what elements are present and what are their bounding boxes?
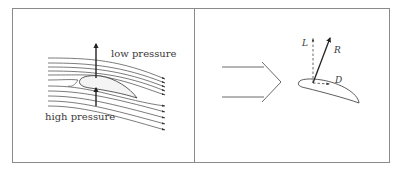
airfoil-right [298,79,359,103]
label-low-pressure: low pressure [111,48,177,59]
flow-chevron-arrow [222,62,281,102]
resultant-vector [313,38,330,83]
label-resultant: R [333,45,341,55]
label-drag: D [334,75,342,85]
right-panel: L R D [222,38,359,103]
label-lift: L [301,38,308,48]
streamlines-below [48,86,165,130]
airfoil-diagram: low pressure high pressure L R D [0,0,404,169]
label-high-pressure: high pressure [45,111,115,122]
